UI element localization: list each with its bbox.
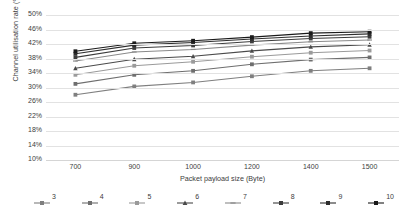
data-point-marker <box>191 60 195 64</box>
data-point-marker <box>132 51 137 52</box>
y-tick-label: 50% <box>14 10 42 20</box>
legend-marker-icon <box>320 193 336 201</box>
legend-item-7[interactable]: 7 <box>225 193 247 201</box>
y-tick-label: 34% <box>14 68 42 78</box>
legend-label: 8 <box>291 193 295 201</box>
legend-marker-icon <box>129 193 145 201</box>
legend-label: 5 <box>147 193 151 201</box>
data-point-marker <box>309 31 313 35</box>
y-tick-label: 18% <box>14 126 42 136</box>
series-line <box>75 45 369 69</box>
gridline <box>46 44 399 45</box>
data-point-marker <box>74 93 78 97</box>
data-point-marker <box>191 81 195 85</box>
legend-item-5[interactable]: 5 <box>129 193 151 201</box>
data-point-marker <box>368 66 372 70</box>
gridline <box>46 88 399 89</box>
legend-marker-icon <box>273 193 289 201</box>
legend-item-4[interactable]: 4 <box>82 193 104 201</box>
data-point-marker <box>308 41 313 42</box>
legend-label: 6 <box>195 193 199 201</box>
x-axis-line <box>46 160 399 161</box>
gridline <box>46 30 399 31</box>
data-point-marker <box>191 49 196 50</box>
chart-container: Channel utilisation rate (%) 50%46%42%38… <box>0 0 407 210</box>
gridline <box>46 117 399 118</box>
data-point-marker <box>250 74 254 78</box>
gridline <box>46 15 399 16</box>
legend-label: 9 <box>338 193 342 201</box>
x-tick-label: 1500 <box>347 163 393 170</box>
y-tick-label: 42% <box>14 39 42 49</box>
y-tick-label: 14% <box>14 141 42 151</box>
gridline <box>46 73 399 74</box>
legend-item-8[interactable]: 8 <box>273 193 295 201</box>
x-tick-label: 900 <box>111 163 157 170</box>
series-6 <box>73 42 372 70</box>
legend-item-10[interactable]: 10 <box>368 193 394 201</box>
data-point-marker <box>191 39 195 43</box>
y-tick-label: 46% <box>14 25 42 35</box>
x-tick-label: 700 <box>52 163 98 170</box>
x-tick-label: 1200 <box>229 163 275 170</box>
series-3 <box>74 66 372 96</box>
data-point-marker <box>74 82 78 86</box>
gridline <box>46 131 399 132</box>
x-tick-label: 1000 <box>170 163 216 170</box>
legend-label: 7 <box>243 193 247 201</box>
legend-item-9[interactable]: 9 <box>320 193 342 201</box>
y-tick-label: 10% <box>14 155 42 165</box>
y-tick-label: 38% <box>14 54 42 64</box>
plot-area <box>46 15 399 160</box>
gridline <box>46 59 399 60</box>
y-tick-label: 26% <box>14 97 42 107</box>
gridline <box>46 102 399 103</box>
x-axis-title: Packet payload size (Byte) <box>46 174 399 183</box>
data-point-marker <box>250 35 254 39</box>
data-point-marker <box>73 60 78 61</box>
chart-legend: 345678910 <box>34 190 394 204</box>
legend-label: 10 <box>386 193 394 201</box>
legend-label: 3 <box>52 193 56 201</box>
legend-marker-icon <box>177 193 193 201</box>
legend-marker-icon <box>34 193 50 201</box>
legend-marker-icon <box>225 193 241 201</box>
legend-item-3[interactable]: 3 <box>34 193 56 201</box>
legend-marker-icon <box>82 193 98 201</box>
data-point-marker <box>74 49 78 53</box>
x-tick-label: 1400 <box>288 163 334 170</box>
data-point-marker <box>250 62 254 66</box>
y-axis-tick-labels: 50%46%42%38%34%30%26%22%18%14%10% <box>14 10 42 162</box>
legend-item-6[interactable]: 6 <box>177 193 199 201</box>
gridline <box>46 146 399 147</box>
y-tick-label: 22% <box>14 112 42 122</box>
data-point-marker <box>132 64 136 68</box>
legend-label: 4 <box>100 193 104 201</box>
legend-marker-icon <box>368 193 384 201</box>
data-point-marker <box>367 39 372 40</box>
data-point-marker <box>309 51 313 55</box>
y-tick-label: 30% <box>14 83 42 93</box>
data-point-marker <box>368 49 372 53</box>
